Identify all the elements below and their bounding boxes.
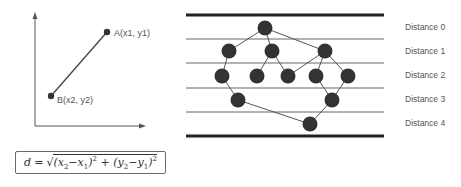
distance-label-2: Distance 2: [405, 70, 445, 80]
formula-minus: −y: [128, 156, 143, 169]
node-level-3: [325, 93, 340, 108]
formula-term1: (x: [53, 156, 64, 169]
node-level-0: [258, 21, 273, 36]
distance-formula: d = √ (x2−x1)2 + (y2−y1)2: [15, 151, 166, 174]
formula-sup: 2: [152, 155, 156, 163]
distance-segment: [51, 32, 107, 96]
node-level-4: [303, 117, 318, 132]
formula-equals: =: [34, 156, 43, 169]
point-a-label: A(x1, y1): [114, 28, 150, 38]
node-level-1: [265, 44, 280, 59]
node-level-2: [341, 69, 356, 84]
coordinate-plot: A(x1, y1) B(x2, y2): [33, 12, 151, 129]
sqrt-icon: √: [46, 156, 53, 169]
node-level-3: [231, 93, 246, 108]
node-level-2: [309, 69, 324, 84]
node-level-1: [318, 44, 333, 59]
node-level-2: [215, 69, 230, 84]
point-a: [104, 29, 110, 35]
formula-radicand: (x2−x1)2 + (y2−y1)2: [53, 154, 157, 171]
formula-term2: (y: [113, 156, 124, 169]
distance-label-list: Distance 0 Distance 1 Distance 2 Distanc…: [405, 22, 445, 128]
distance-label-3: Distance 3: [405, 94, 445, 104]
node-level-2: [281, 69, 296, 84]
x-axis-arrow-icon: [139, 124, 146, 129]
formula-minus: −x: [68, 156, 83, 169]
point-b: [48, 93, 54, 99]
node-level-2: [250, 69, 265, 84]
node-level-1: [222, 44, 237, 59]
distance-label-4: Distance 4: [405, 118, 445, 128]
distance-label-1: Distance 1: [405, 46, 445, 56]
distance-label-0: Distance 0: [405, 22, 445, 32]
formula-lhs: d: [24, 156, 31, 169]
formula-plus: +: [97, 156, 113, 169]
graph-nodes: [215, 21, 356, 132]
y-axis-arrow-icon: [33, 12, 38, 19]
point-b-label: B(x2, y2): [57, 95, 93, 105]
